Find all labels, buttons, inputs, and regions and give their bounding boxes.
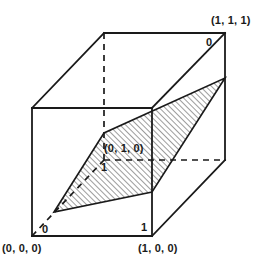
tick-label-center-one: 1 — [101, 162, 107, 173]
edge-top-left-receding — [32, 33, 104, 108]
tick-label-origin-zero: 0 — [42, 224, 48, 235]
tick-label-top-zero: 0 — [206, 37, 212, 48]
vertex-label-000: (0, 0, 0) — [2, 243, 42, 254]
tick-label-bottom-one: 1 — [141, 222, 147, 233]
cube-geometry-svg — [0, 0, 262, 266]
vertex-label-010: (0, 1, 0) — [104, 143, 144, 154]
vertex-label-100: (1, 0, 0) — [138, 243, 178, 254]
vertex-label-111: (1, 1, 1) — [211, 15, 251, 26]
cube-diagram-figure: (1, 1, 1) (0, 0, 0) (1, 0, 0) (0, 1, 0) … — [0, 0, 262, 266]
